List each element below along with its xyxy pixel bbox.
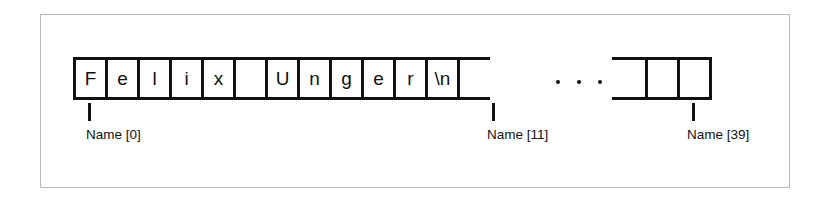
array-cell: n	[300, 60, 332, 97]
array-cell: r	[396, 60, 428, 97]
index-label: Name [39]	[687, 128, 749, 142]
array-cell	[645, 60, 677, 97]
array-cell: e	[364, 60, 396, 97]
array-cell: e	[108, 60, 140, 97]
array-cell	[677, 60, 709, 97]
array-cell	[236, 60, 268, 97]
index-label: Name [0]	[86, 128, 141, 142]
array-cell: i	[172, 60, 204, 97]
pointer-tick	[692, 103, 695, 121]
array-cell: l	[140, 60, 172, 97]
pointer-tick	[492, 103, 495, 121]
array-cell	[460, 60, 490, 97]
array-row-tail	[612, 57, 712, 100]
array-cell: \n	[428, 60, 460, 97]
ellipsis-dot	[598, 80, 602, 84]
array-row-main: F e l i x U n g e r \n	[73, 57, 490, 100]
ellipsis-dot	[556, 80, 560, 84]
array-cell: x	[204, 60, 236, 97]
array-cell	[612, 60, 645, 97]
ellipsis-icon	[556, 68, 602, 96]
ellipsis-dot	[577, 80, 581, 84]
array-diagram: F e l i x U n g e r \n	[0, 0, 830, 205]
array-cell: U	[268, 60, 300, 97]
figure-root: F e l i x U n g e r \n	[0, 0, 830, 205]
pointer-tick	[88, 103, 91, 121]
array-cell: g	[332, 60, 364, 97]
index-label: Name [11]	[487, 128, 548, 142]
array-cell: F	[76, 60, 108, 97]
